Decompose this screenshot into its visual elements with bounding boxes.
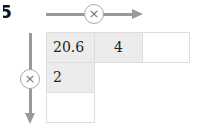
problem-number: 5 [0,2,12,22]
arrow-down-icon [25,113,35,124]
cell-r1-c1: 20.6 [46,32,95,63]
cell-r1-c3-answer[interactable] [142,32,190,63]
multiply-icon: × [20,69,40,89]
cell-r3-c1-answer[interactable] [46,92,95,123]
multiply-icon: × [84,4,104,24]
cell-r2-c1: 2 [46,62,95,93]
cell-r1-c2: 4 [94,32,143,63]
arrow-right-icon [132,9,143,19]
